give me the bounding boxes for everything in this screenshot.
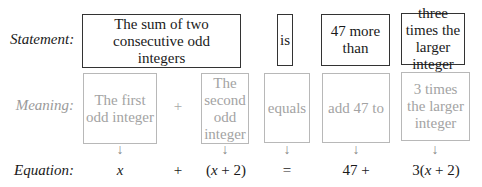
meaning-text-add-47: add 47 to bbox=[328, 100, 384, 117]
statement-box-is: is bbox=[277, 14, 293, 66]
down-arrow-icon: ↓ bbox=[110, 142, 130, 158]
equation-row-label: Equation: bbox=[10, 162, 74, 179]
statement-box-more-than: 47 more than bbox=[321, 14, 390, 66]
statement-box-three-times: three times the larger integer bbox=[401, 13, 465, 65]
meaning-box-second: The second odd integer bbox=[201, 73, 249, 144]
statement-text-sum: The sum of two consecutive odd integers bbox=[111, 16, 212, 67]
statement-box-sum: The sum of two consecutive odd integers bbox=[82, 14, 241, 68]
meaning-box-add-47: add 47 to bbox=[322, 73, 390, 143]
statement-text-three-times: three times the larger integer bbox=[403, 5, 463, 73]
down-arrow-icon: ↓ bbox=[346, 142, 366, 158]
down-arrow-icon: ↓ bbox=[425, 142, 445, 158]
down-arrow-icon: ↓ bbox=[277, 142, 297, 158]
meaning-row-label: Meaning: bbox=[10, 97, 74, 114]
meaning-plus-operator: + bbox=[168, 98, 188, 115]
statement-text-more-than: 47 more than bbox=[330, 23, 381, 57]
equation-term-x-plus-2: (x + 2) bbox=[200, 162, 252, 179]
equation-variable-x: x bbox=[117, 162, 124, 178]
meaning-text-3-times: 3 times the larger integer bbox=[406, 81, 465, 132]
equation-term-47-plus: 47 + bbox=[330, 162, 382, 179]
statement-text-is: is bbox=[280, 32, 290, 49]
meaning-text-second: The second odd integer bbox=[203, 75, 247, 143]
equation-term-3-times: 3(x + 2) bbox=[405, 162, 467, 179]
statement-row-label: Statement: bbox=[10, 31, 74, 48]
meaning-text-first: The first odd integer bbox=[86, 92, 154, 126]
meaning-box-equals: equals bbox=[264, 73, 310, 143]
equation-term-x: x bbox=[110, 162, 130, 179]
equation-equals-sign: = bbox=[277, 162, 297, 179]
meaning-box-first: The first odd integer bbox=[83, 73, 157, 144]
down-arrow-icon: ↓ bbox=[215, 142, 235, 158]
meaning-text-equals: equals bbox=[268, 100, 306, 117]
meaning-box-3-times: 3 times the larger integer bbox=[401, 72, 470, 141]
equation-plus-operator: + bbox=[168, 162, 188, 179]
